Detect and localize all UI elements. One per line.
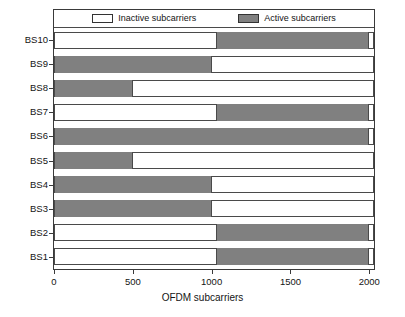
bar-row — [54, 248, 374, 265]
y-tick-label-bs7: BS7 — [30, 107, 48, 117]
bar-segment-active — [216, 248, 369, 265]
legend-swatch-inactive-icon — [92, 14, 113, 23]
x-tick-mark — [54, 270, 55, 274]
x-tick-label-2000: 2000 — [359, 276, 380, 287]
bar-segment-active — [54, 176, 212, 193]
bar-row — [54, 56, 374, 73]
bar-segment-active — [54, 80, 133, 97]
bar-segment-active — [54, 152, 133, 169]
bar-segment-active — [54, 128, 369, 145]
bar-row — [54, 104, 374, 121]
y-tick-mark — [49, 112, 53, 113]
y-tick-mark — [49, 257, 53, 258]
x-tick-mark — [212, 270, 213, 274]
x-tick-label-500: 500 — [125, 276, 141, 287]
x-tick-label-1000: 1000 — [201, 276, 222, 287]
bar-row — [54, 224, 374, 241]
x-tick-label-1500: 1500 — [280, 276, 301, 287]
bar-row — [54, 152, 374, 169]
bar-segment-active — [54, 200, 212, 217]
y-tick-label-bs10: BS10 — [25, 35, 48, 45]
y-tick-label-bs4: BS4 — [30, 180, 48, 190]
y-tick-mark — [49, 40, 53, 41]
bar-segment-active — [216, 104, 369, 121]
bar-segment-active — [216, 224, 369, 241]
legend-label-active: Active subcarriers — [264, 14, 336, 23]
y-tick-mark — [49, 209, 53, 210]
y-tick-label-bs5: BS5 — [30, 156, 48, 166]
bar-row — [54, 32, 374, 49]
x-tick-mark — [290, 270, 291, 274]
y-tick-mark — [49, 161, 53, 162]
y-tick-mark — [49, 233, 53, 234]
x-tick-label-0: 0 — [51, 276, 56, 287]
bar-row — [54, 200, 374, 217]
y-tick-label-bs6: BS6 — [30, 131, 48, 141]
bar-segment-active — [216, 32, 369, 49]
y-axis: BS10BS9BS8BS7BS6BS5BS4BS3BS2BS1 — [0, 0, 48, 317]
y-tick-label-bs2: BS2 — [30, 228, 48, 238]
bar-segment-active — [54, 56, 212, 73]
bars-container — [54, 28, 374, 269]
y-tick-label-bs3: BS3 — [30, 204, 48, 214]
y-tick-mark — [49, 136, 53, 137]
legend-swatch-active-icon — [238, 14, 259, 23]
y-tick-mark — [49, 185, 53, 186]
bar-row — [54, 128, 374, 145]
y-tick-mark — [49, 64, 53, 65]
y-tick-label-bs1: BS1 — [30, 252, 48, 262]
legend-label-inactive: Inactive subcarriers — [118, 14, 196, 23]
bar-row — [54, 176, 374, 193]
x-tick-mark — [369, 270, 370, 274]
legend-item-inactive: Inactive subcarriers — [92, 14, 196, 23]
chart-figure: Inactive subcarriers Active subcarriers … — [0, 0, 405, 317]
legend-item-active: Active subcarriers — [238, 14, 336, 23]
y-tick-label-bs8: BS8 — [30, 83, 48, 93]
y-tick-mark — [49, 88, 53, 89]
bar-row — [54, 80, 374, 97]
y-tick-label-bs9: BS9 — [30, 59, 48, 69]
chart-legend: Inactive subcarriers Active subcarriers — [54, 10, 374, 28]
x-tick-mark — [133, 270, 134, 274]
x-axis-label: OFDM subcarriers — [0, 292, 405, 304]
